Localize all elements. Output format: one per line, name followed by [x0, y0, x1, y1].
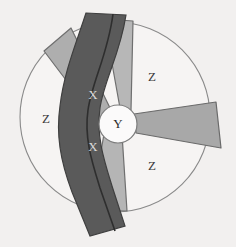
band-label-x-upper: X — [88, 87, 98, 102]
figure-root: Z Z Z X X Y — [0, 0, 236, 247]
fan-diagram: Z Z Z X X Y — [0, 0, 236, 247]
center-hub-label: Y — [113, 116, 123, 131]
region-label-z-bottom-right: Z — [148, 158, 156, 173]
band-label-x-lower: X — [88, 139, 98, 154]
region-label-z-left: Z — [42, 111, 50, 126]
region-label-z-top-right: Z — [148, 69, 156, 84]
